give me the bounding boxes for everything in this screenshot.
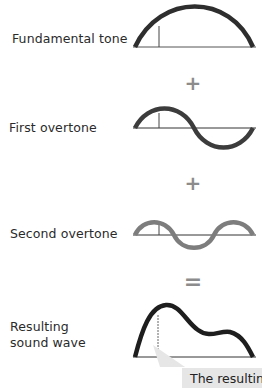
resulting-wave <box>133 305 256 357</box>
first-overtone-wave <box>133 109 256 148</box>
second-overtone-wave <box>133 222 256 248</box>
plus-operator-2: + <box>183 172 203 194</box>
fundamental-tone-label: Fundamental tone <box>12 31 128 46</box>
first-overtone-label: First overtone <box>9 120 97 135</box>
resulting-wave-callout: The resulting sound wave <box>182 368 262 388</box>
resulting-wave-label-line1: Resulting <box>10 319 69 334</box>
plus-operator-1: + <box>183 72 203 94</box>
second-overtone-label: Second overtone <box>10 226 118 241</box>
resulting-wave-label-line2: sound wave <box>10 335 86 350</box>
fundamental-wave <box>133 7 256 48</box>
equals-operator: = <box>183 270 203 294</box>
